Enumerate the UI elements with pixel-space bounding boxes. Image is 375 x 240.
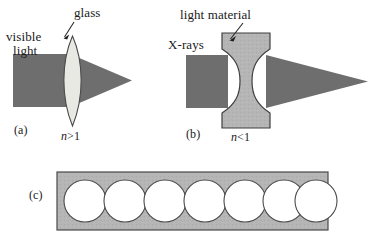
panel-a-element-label: glass <box>74 6 101 20</box>
hole <box>104 180 146 222</box>
panel-b-converging-beam <box>266 55 368 108</box>
panel-a-convex-lens <box>64 36 81 126</box>
panel-b-element-label: light material <box>180 8 251 22</box>
panel-c-lens-bar <box>57 172 337 230</box>
hole <box>184 180 226 222</box>
panel-a-source-label-line1: visible <box>6 30 41 44</box>
hole <box>64 180 106 222</box>
panel-a-index-relation: >1 <box>67 129 80 143</box>
panel-a-tag: (a) <box>14 124 28 137</box>
panel-a-index-label: n>1 <box>61 130 80 143</box>
panel-a-source-label-line2: light <box>13 44 37 58</box>
optics-figure: glass visible light (a) n>1 light materi… <box>0 0 375 240</box>
hole <box>295 180 337 222</box>
hole <box>144 180 186 222</box>
panel-b-tag: (b) <box>186 128 200 141</box>
hole <box>224 180 266 222</box>
panel-a-incoming-beam <box>13 54 70 107</box>
panel-b-index-label: n<1 <box>231 131 250 144</box>
panel-b-concave-lens <box>222 33 270 128</box>
panel-b-source-label: X-rays <box>168 38 204 52</box>
panel-c-tag: (c) <box>29 189 43 202</box>
panel-b-incoming-beam <box>186 55 228 108</box>
panel-b-index-relation: <1 <box>237 130 250 144</box>
figure-artwork <box>0 0 375 240</box>
